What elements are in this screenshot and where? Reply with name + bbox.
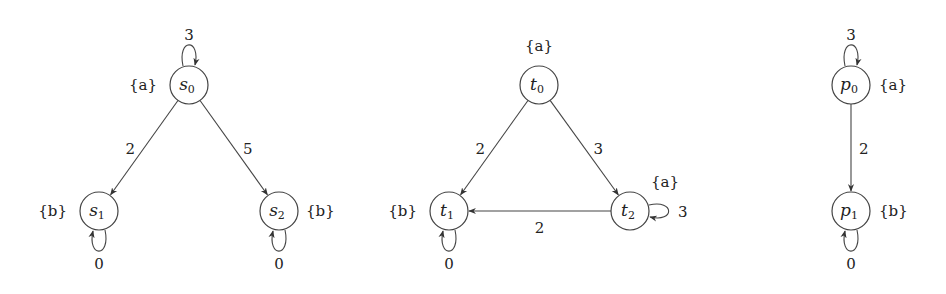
edge-weight-label: 3 <box>846 26 856 44</box>
edge-t0-t2 <box>550 100 618 194</box>
edge-weight-label: 2 <box>125 140 135 158</box>
edge-weight-label: 2 <box>859 140 869 158</box>
state-proposition-label: {a} <box>879 76 907 94</box>
node-p0: p0 <box>832 66 870 104</box>
edge-weight-label: 0 <box>274 255 284 273</box>
node-s1: s1 <box>80 192 118 230</box>
state-proposition-label: {a} <box>651 173 679 191</box>
transition-systems-diagram: s0s1s2t0t1t2p0p1 32500{a}{b}{b}23230{a}{… <box>0 0 946 294</box>
state-proposition-label: {b} <box>306 202 335 220</box>
node-t1: t1 <box>430 192 468 230</box>
edge-weight-label: 3 <box>184 26 194 44</box>
edge-p1-p1 <box>844 230 858 251</box>
node-t0: t0 <box>520 66 558 104</box>
state-proposition-label: {b} <box>388 202 417 220</box>
edge-weight-label: 0 <box>846 255 856 273</box>
node-p1: p1 <box>832 192 870 230</box>
node-s2: s2 <box>260 192 298 230</box>
edge-weight-label: 2 <box>475 140 485 158</box>
edge-t1-t1 <box>442 230 456 251</box>
state-proposition-label: {a} <box>525 37 553 55</box>
edge-weight-label: 0 <box>94 255 104 273</box>
state-proposition-label: {b} <box>38 202 67 220</box>
edge-s0-s2 <box>200 100 267 194</box>
edge-t2-t2 <box>649 204 669 218</box>
edge-s0-s0 <box>182 45 196 66</box>
edge-weight-label: 3 <box>678 203 688 221</box>
edge-p0-p0 <box>844 45 858 66</box>
edge-s1-s1 <box>92 230 106 251</box>
node-s0: s0 <box>170 66 208 104</box>
node-t2: t2 <box>611 192 649 230</box>
edge-s0-s1 <box>111 100 178 194</box>
edge-weight-label: 2 <box>535 219 545 237</box>
edge-weight-label: 0 <box>444 255 454 273</box>
state-proposition-label: {a} <box>129 76 157 94</box>
labels-layer: 32500{a}{b}{b}23230{a}{b}{a}320{a}{b} <box>38 26 907 273</box>
edge-t0-t1 <box>461 100 528 194</box>
edge-weight-label: 5 <box>243 140 253 158</box>
edge-s2-s2 <box>272 230 286 251</box>
state-proposition-label: {b} <box>879 202 908 220</box>
edge-weight-label: 3 <box>594 140 604 158</box>
